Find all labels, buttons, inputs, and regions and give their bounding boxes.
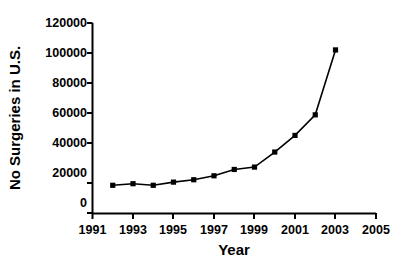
- y-tick-labels: 120000 100000 80000 60000 40000 20000 0: [45, 16, 87, 210]
- data-point: [110, 183, 115, 188]
- x-tick-label: 2005: [362, 223, 390, 237]
- y-axis-title: No Surgeries in U.S.: [6, 46, 23, 190]
- series-line: [113, 50, 336, 185]
- x-tick-label: 2003: [321, 223, 349, 237]
- x-tick-label: 1993: [119, 223, 147, 237]
- x-tick-label: 1995: [159, 223, 187, 237]
- x-tick-labels: 1991 1993 1995 1997 1999 2001 2003 2005: [79, 223, 390, 237]
- y-tick-label: 80000: [52, 76, 87, 90]
- data-point: [211, 173, 216, 178]
- x-tick-label: 1991: [79, 223, 107, 237]
- series-markers: [110, 47, 338, 188]
- x-tick-label: 2001: [281, 223, 309, 237]
- data-point: [272, 149, 277, 154]
- x-axis-title: Year: [218, 241, 250, 258]
- data-point: [252, 164, 257, 169]
- y-axis-title-text: No Surgeries in U.S.: [6, 46, 23, 190]
- x-tick-label: 1999: [240, 223, 268, 237]
- data-point: [333, 47, 338, 52]
- data-point: [232, 167, 237, 172]
- data-point: [130, 181, 135, 186]
- y-tick-label: 60000: [52, 106, 87, 120]
- data-point: [313, 112, 318, 117]
- y-tick-label: 20000: [52, 166, 87, 180]
- line-chart-plot: No Surgeries in U.S. 120000 100000 80000…: [0, 0, 406, 266]
- y-tick-label: 100000: [45, 46, 87, 60]
- data-point: [171, 180, 176, 185]
- data-point: [292, 133, 297, 138]
- y-tick-label: 0: [80, 196, 87, 210]
- data-point: [191, 177, 196, 182]
- x-tick-label: 1997: [200, 223, 228, 237]
- data-point: [151, 183, 156, 188]
- y-tick-label: 40000: [52, 136, 87, 150]
- chart-figure: No Surgeries in U.S. 120000 100000 80000…: [0, 0, 406, 266]
- y-tick-label: 120000: [45, 16, 87, 30]
